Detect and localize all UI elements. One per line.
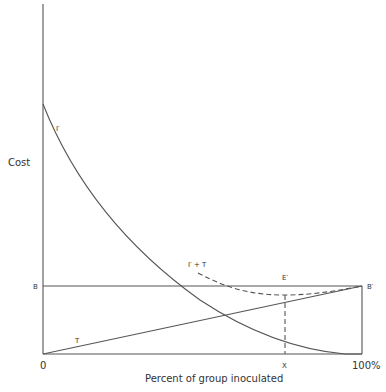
i-prime-label: I′: [56, 125, 60, 133]
x-mark-label: X: [282, 362, 287, 370]
b-prime-label: B′: [367, 283, 374, 291]
i-prime-curve: [43, 104, 362, 354]
t-line-label: T: [74, 337, 80, 345]
e-prime-label: E′: [282, 274, 288, 282]
y-axis-label: Cost: [8, 157, 30, 168]
x-end-label: 100%: [352, 360, 381, 371]
b-level-label: B: [33, 283, 38, 291]
x-axis-label: Percent of group inoculated: [145, 373, 283, 384]
t-line: [43, 286, 362, 354]
origin-label: 0: [40, 360, 46, 371]
sum-curve-label: I′ + T: [188, 261, 207, 269]
cost-diagram: Cost Percent of group inoculated 0 X 100…: [0, 0, 386, 392]
